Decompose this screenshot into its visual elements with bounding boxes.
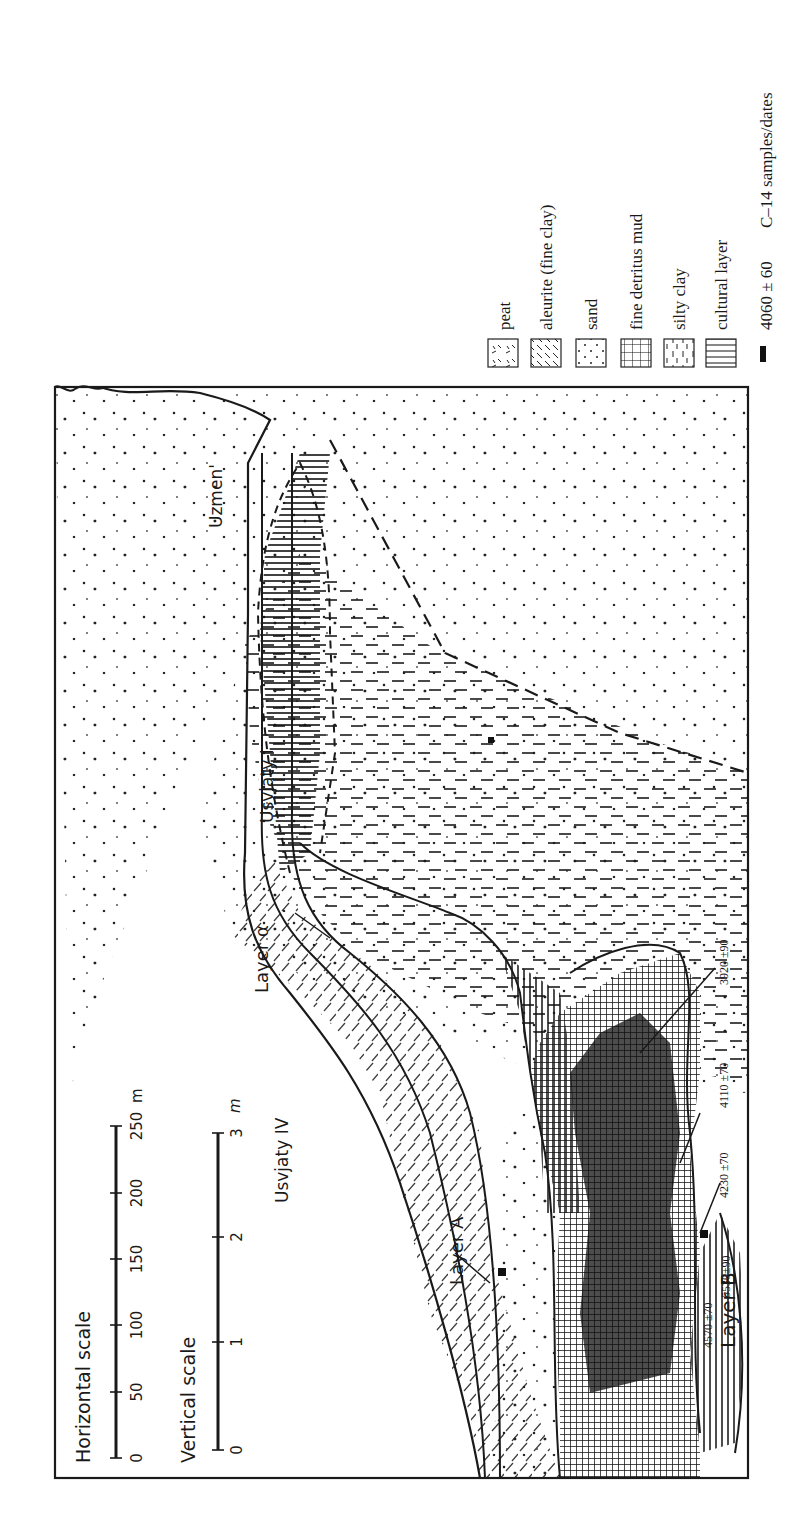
h-scale-unit: m (128, 1088, 146, 1103)
silty-clay-swatch (664, 339, 694, 367)
legend-item-peat: peat (488, 301, 518, 367)
stratigraphic-cross-section: peat aleurite (fine clay) sand fine detr… (0, 0, 800, 1513)
legend-label-aleurite: aleurite (fine clay) (537, 204, 556, 330)
c14-date-5530: 5530±90 (719, 1255, 733, 1298)
legend-label-detritus: fine detritus mud (627, 213, 646, 330)
cross-section-drawing: Horizontal scale 0 50 100 150 200 250 m (55, 386, 748, 1478)
cultural-swatch (706, 339, 736, 367)
v-tick-3: 3 (228, 1128, 246, 1138)
horizontal-scale-title: Horizontal scale (72, 1311, 94, 1463)
legend-label-cultural: cultural layer (712, 240, 731, 330)
legend-item-cultural: cultural layer (706, 240, 736, 367)
legend-label-silty-clay: silty clay (670, 268, 689, 330)
v-tick-0: 0 (228, 1445, 246, 1455)
layer-alpha-label: Layer α (251, 925, 272, 993)
c14-marker-upper (488, 737, 494, 743)
detritus-swatch (621, 339, 651, 367)
legend: peat aleurite (fine clay) sand fine detr… (488, 92, 776, 367)
v-scale-unit: m (226, 1098, 244, 1113)
peat-swatch (488, 339, 518, 367)
v-tick-2: 2 (228, 1232, 246, 1242)
site-label-usvjaty-iv: Usvjaty IV (272, 1117, 292, 1203)
c14-marker-layer-a (498, 1268, 506, 1276)
vertical-scale-title: Vertical scale (177, 1337, 199, 1463)
legend-c14-value: 4060 ± 60 (757, 261, 776, 330)
legend-item-silty-clay: silty clay (664, 268, 694, 367)
h-tick-50: 50 (128, 1382, 146, 1401)
h-tick-150: 150 (128, 1245, 146, 1274)
c14-date-3920: 3920 ±90 (717, 939, 731, 985)
legend-label-peat: peat (495, 301, 514, 330)
layer-a-label: Layer A (446, 1216, 467, 1285)
legend-item-aleurite: aleurite (fine clay) (531, 204, 561, 367)
v-tick-1: 1 (228, 1337, 246, 1347)
horizontal-scale: Horizontal scale 0 50 100 150 200 250 m (72, 1088, 146, 1463)
legend-item-c14: 4060 ± 60 C–14 samples/dates (757, 92, 776, 362)
site-label-usvjaty-i: Usvjaty I (257, 749, 277, 823)
site-label-uzmen: Uzmen' (206, 464, 226, 528)
legend-c14-label: C–14 samples/dates (757, 92, 776, 228)
h-tick-200: 200 (128, 1179, 146, 1208)
sand-swatch (576, 339, 606, 367)
vertical-scale: Vertical scale 0 1 2 3 m (177, 1098, 246, 1463)
h-tick-0: 0 (128, 1453, 146, 1463)
c14-date-4110: 4110 ±70 (717, 1063, 731, 1108)
c14-date-4230: 4230 ±70 (717, 1152, 731, 1198)
h-tick-100: 100 (128, 1311, 146, 1340)
legend-label-sand: sand (582, 298, 601, 330)
h-tick-250: 250 (128, 1112, 146, 1141)
legend-item-sand: sand (576, 298, 606, 367)
legend-item-detritus: fine detritus mud (621, 213, 651, 367)
c14-date-4570: 4570 ±70 (701, 1302, 715, 1348)
aleurite-swatch (531, 339, 561, 367)
c14-sample-marker-icon (760, 346, 766, 362)
